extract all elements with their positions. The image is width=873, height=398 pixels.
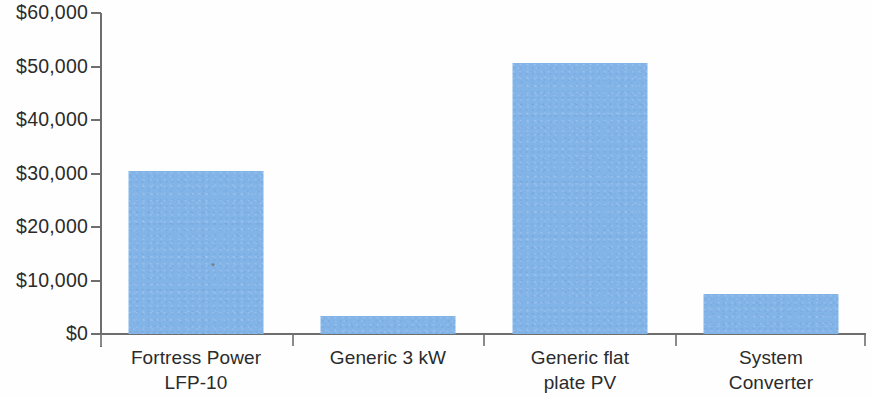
bar-slot-2 [484,13,676,334]
bar-generic-flat-plate-pv[interactable] [513,63,648,334]
scan-artifact-speck [212,263,215,266]
x-label-3-line-1: Converter [676,370,866,395]
x-label-0: Fortress Power LFP-10 [100,345,292,395]
x-label-1-line-0: Generic 3 kW [292,345,484,370]
x-label-2: Generic flat plate PV [484,345,676,395]
x-label-2-line-0: Generic flat [484,345,676,370]
y-tick-label-10000: $10,000 [0,271,88,291]
bar-fortress-power-lfp-10[interactable] [129,171,264,334]
bar-slot-0 [100,13,292,334]
x-label-2-line-1: plate PV [484,370,676,395]
plot-area [100,13,866,334]
bar-chart: $60,000 $50,000 $40,000 $30,000 $20,000 … [0,0,873,398]
y-tick-label-30000: $30,000 [0,164,88,184]
x-label-3-line-0: System [676,345,866,370]
x-label-1: Generic 3 kW [292,345,484,370]
y-axis-labels: $60,000 $50,000 $40,000 $30,000 $20,000 … [0,0,88,340]
y-tick-label-50000: $50,000 [0,57,88,77]
y-tick-label-60000: $60,000 [0,3,88,23]
bar-generic-3-kw[interactable] [321,316,456,334]
bar-slot-3 [676,13,866,334]
y-tick-label-0: $0 [0,324,88,344]
x-label-0-line-0: Fortress Power [100,345,292,370]
x-axis-labels: Fortress Power LFP-10 Generic 3 kW Gener… [100,345,866,398]
bar-slot-1 [292,13,484,334]
bar-system-converter[interactable] [704,294,839,334]
x-label-0-line-1: LFP-10 [100,370,292,395]
y-tick-label-20000: $20,000 [0,217,88,237]
x-label-3: System Converter [676,345,866,395]
y-tick-label-40000: $40,000 [0,110,88,130]
